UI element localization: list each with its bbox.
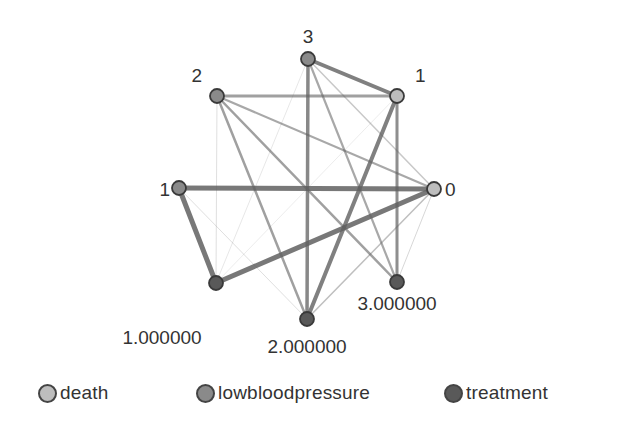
node-label-death_0: 0 xyxy=(445,179,456,200)
node-label-lbp_1: 1 xyxy=(159,179,170,200)
node-label-trt_3: 3.000000 xyxy=(357,293,436,314)
node-death_0[interactable] xyxy=(427,182,441,196)
node-label-lbp_2: 2 xyxy=(191,65,202,86)
legend-label: lowbloodpressure xyxy=(218,382,370,404)
legend-label: death xyxy=(60,382,109,404)
node-label-lbp_3: 3 xyxy=(303,26,314,47)
node-death_1[interactable] xyxy=(390,89,404,103)
node-trt_3[interactable] xyxy=(390,275,404,289)
node-trt_1[interactable] xyxy=(209,276,223,290)
node-label-trt_1: 1.000000 xyxy=(122,327,201,348)
legend-item-treatment: treatment xyxy=(444,378,548,408)
edge-lbp_2-trt_1 xyxy=(216,96,217,283)
network-graph: 011231.0000002.0000003.000000 xyxy=(0,0,626,423)
legend-label: treatment xyxy=(466,382,548,404)
node-label-death_1: 1 xyxy=(415,65,426,86)
lowbloodpressure-circle-icon xyxy=(196,384,215,403)
node-lbp_1[interactable] xyxy=(172,181,186,195)
edge-lbp_1-trt_1 xyxy=(179,188,216,283)
node-label-trt_2: 2.000000 xyxy=(267,336,346,357)
treatment-circle-icon xyxy=(444,384,463,403)
node-trt_2[interactable] xyxy=(300,312,314,326)
legend-item-death: death xyxy=(38,378,109,408)
death-circle-icon xyxy=(38,384,57,403)
node-lbp_3[interactable] xyxy=(301,52,315,66)
node-lbp_2[interactable] xyxy=(210,89,224,103)
edge-death_1-trt_2 xyxy=(307,96,397,319)
legend-item-lowbloodpressure: lowbloodpressure xyxy=(196,378,370,408)
legend: death lowbloodpressure treatment xyxy=(0,378,626,408)
